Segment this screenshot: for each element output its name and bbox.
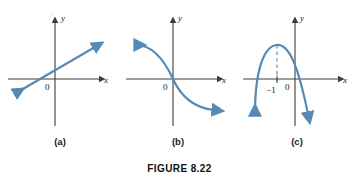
panel-a: y x 0 / (a) bbox=[0, 0, 120, 160]
y-axis-label-a: y bbox=[60, 13, 65, 23]
origin-label-a: 0 bbox=[45, 82, 50, 92]
origin-label-b: 0 bbox=[163, 82, 168, 92]
panel-label-a: (a) bbox=[0, 136, 120, 147]
stray-mark-a: / bbox=[50, 11, 54, 17]
x-axis-label-b: x bbox=[221, 75, 226, 85]
panel-c: y x −1 0 (c) bbox=[237, 0, 357, 160]
vertex-label-c: −1 bbox=[266, 85, 276, 95]
graph-c: y x −1 0 bbox=[237, 0, 359, 136]
origin-label-c: 0 bbox=[285, 82, 290, 92]
graph-a: y x 0 / bbox=[0, 0, 120, 136]
panel-b: y x 0 (b) bbox=[118, 0, 238, 160]
x-axis-label-a: x bbox=[103, 75, 108, 85]
y-axis-label-c: y bbox=[299, 13, 304, 23]
panel-label-c: (c) bbox=[237, 136, 357, 147]
panel-row: y x 0 / (a) y bbox=[0, 0, 359, 160]
line-curve-b bbox=[136, 45, 214, 110]
x-axis-label-c: x bbox=[342, 75, 347, 85]
y-axis-label-b: y bbox=[177, 13, 182, 23]
figure-caption: FIGURE 8.22 bbox=[0, 163, 359, 174]
panel-label-b: (b) bbox=[118, 136, 238, 147]
figure-8-22: y x 0 / (a) y bbox=[0, 0, 359, 189]
graph-b: y x 0 bbox=[118, 0, 238, 136]
